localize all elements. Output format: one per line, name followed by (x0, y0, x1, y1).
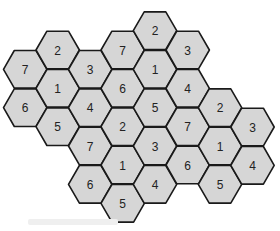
hex-cell-label: 6 (87, 178, 94, 192)
hex-cell-label: 4 (249, 159, 256, 173)
hex-cell-label: 7 (22, 63, 29, 77)
hex-cell-label: 4 (184, 82, 191, 96)
hex-cell-label: 1 (217, 140, 224, 154)
hex-cluster-diagram: 7621534767621521534347621534 (0, 0, 280, 231)
hex-cell-label: 1 (152, 63, 159, 77)
hex-cell-label: 2 (217, 101, 224, 115)
hex-cell-label: 6 (184, 159, 191, 173)
hex-grid: 7621534767621521534347621534 (0, 0, 280, 231)
hex-cell-label: 5 (152, 101, 159, 115)
hex-cell-label: 5 (119, 197, 126, 211)
figure-caption-faint (28, 219, 118, 225)
hex-cell-label: 2 (152, 24, 159, 38)
hex-cell-label: 2 (119, 120, 126, 134)
hex-cell-label: 7 (119, 44, 126, 58)
hex-cell-label: 6 (119, 82, 126, 96)
hex-cell-label: 3 (249, 121, 256, 135)
hex-cell-label: 7 (87, 140, 94, 154)
hex-cell-label: 4 (152, 178, 159, 192)
hex-cell-label: 3 (184, 44, 191, 58)
hex-cell-label: 2 (54, 44, 61, 58)
hex-cell-label: 3 (152, 140, 159, 154)
hex-cell-label: 1 (54, 82, 61, 96)
hex-cell-label: 5 (217, 178, 224, 192)
hex-cell-label: 4 (87, 101, 94, 115)
hex-cell-label: 7 (184, 120, 191, 134)
hex-cell-label: 3 (87, 63, 94, 77)
hex-cell-label: 6 (22, 101, 29, 115)
hex-cell-label: 5 (54, 120, 61, 134)
hex-cell-label: 1 (119, 159, 126, 173)
